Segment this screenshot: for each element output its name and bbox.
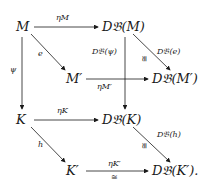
node-D-K-prime: D𝔅(K′). [152,164,198,177]
node-M: M [16,20,29,33]
label-h: h [38,141,43,149]
iso-eta-K-prime: ≅ [111,174,118,179]
label-eta-M: ηM [56,14,69,22]
node-D-K: D𝔅(K) [102,113,141,126]
arrow-e [31,34,65,70]
label-e: e [38,50,43,58]
iso-D-h: ≅ [141,142,149,149]
label-eta-K: ηK [57,107,68,115]
label-eta-M-prime: ηM′ [97,83,112,91]
label-D-psi: D𝔅(ψ) [92,48,117,56]
node-D-M: D𝔅(M) [102,20,145,33]
label-psi: ψ [10,66,16,74]
arrow-h [31,127,65,162]
label-D-h: D𝔅(h) [157,131,181,139]
iso-D-e: ≅ [141,55,149,62]
label-D-e: D𝔅(e) [157,48,180,56]
node-D-M-prime: D𝔅(M′) [152,72,198,85]
node-K: K [16,113,26,126]
label-eta-K-prime: ηK′ [108,160,121,168]
node-M-prime: M′ [66,72,82,85]
node-K-prime: K′ [66,164,79,177]
